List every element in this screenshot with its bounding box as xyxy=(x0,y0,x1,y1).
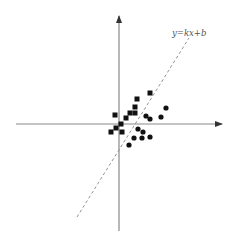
square-marker xyxy=(114,126,119,131)
square-marker xyxy=(119,122,124,127)
circle-marker xyxy=(147,134,152,139)
circle-marker xyxy=(131,135,136,140)
circle-marker xyxy=(158,114,163,119)
circle-marker xyxy=(135,126,140,131)
circle-marker xyxy=(140,129,145,134)
square-markers xyxy=(109,91,153,135)
square-marker xyxy=(120,130,125,135)
circle-marker xyxy=(163,105,168,110)
circle-marker xyxy=(126,142,131,147)
square-marker xyxy=(133,111,138,116)
circle-marker xyxy=(139,135,144,140)
regression-equation-label: y=kx+b xyxy=(171,28,206,38)
square-marker xyxy=(133,105,138,110)
square-marker xyxy=(148,91,153,96)
regression-line xyxy=(77,38,189,217)
square-marker xyxy=(124,116,129,121)
square-marker xyxy=(109,130,114,135)
circle-marker xyxy=(147,116,152,121)
scatter-diagram: y=kx+b xyxy=(0,0,240,241)
square-marker xyxy=(113,113,118,118)
square-marker xyxy=(128,111,133,116)
square-marker xyxy=(135,97,140,102)
